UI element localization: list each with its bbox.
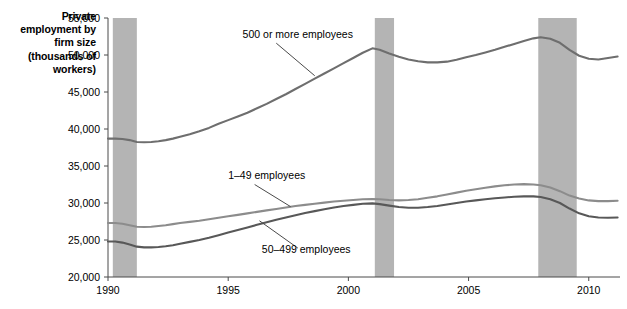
annotation-leader-line bbox=[255, 185, 291, 207]
line-chart-svg: 20,00025,00030,00035,00040,00045,00050,0… bbox=[0, 0, 627, 309]
y-tick-label: 25,000 bbox=[68, 234, 100, 246]
recession-bands-group bbox=[113, 18, 577, 277]
recession-band bbox=[538, 18, 576, 277]
y-tick-label: 35,000 bbox=[68, 160, 100, 172]
plot-area-container: 20,00025,00030,00035,00040,00045,00050,0… bbox=[0, 0, 627, 309]
series-annotations-group: 500 or more employees1–49 employees50–49… bbox=[228, 28, 353, 255]
y-tick-label: 20,000 bbox=[68, 271, 100, 283]
chart-figure: Private employment by firm size (thousan… bbox=[0, 0, 627, 309]
y-tick-label: 30,000 bbox=[68, 197, 100, 209]
x-tick-label: 2010 bbox=[577, 284, 601, 296]
y-tick-label: 45,000 bbox=[68, 86, 100, 98]
series-annotation-label: 1–49 employees bbox=[228, 169, 305, 181]
recession-band bbox=[375, 18, 394, 277]
y-tick-label: 50,000 bbox=[68, 49, 100, 61]
recession-band bbox=[113, 18, 137, 277]
x-tick-label: 1990 bbox=[96, 284, 120, 296]
y-tick-label: 55,000 bbox=[68, 12, 100, 24]
series-annotation-label: 50–499 employees bbox=[262, 243, 351, 255]
annotation-leader-line bbox=[276, 43, 314, 76]
x-tick-label: 2005 bbox=[457, 284, 481, 296]
x-tick-label: 2000 bbox=[337, 284, 361, 296]
y-tick-label: 40,000 bbox=[68, 123, 100, 135]
y-axis-ticks-group: 20,00025,00030,00035,00040,00045,00050,0… bbox=[68, 12, 108, 283]
x-axis-ticks-group: 19901995200020052010 bbox=[96, 277, 600, 296]
x-tick-label: 1995 bbox=[217, 284, 241, 296]
series-annotation-label: 500 or more employees bbox=[243, 28, 353, 40]
